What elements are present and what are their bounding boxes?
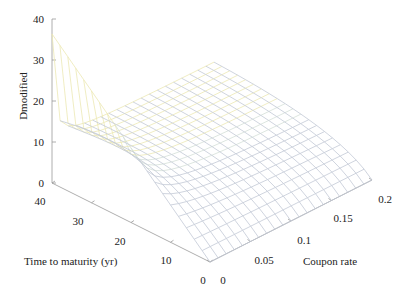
z-tick-label: 30 bbox=[33, 54, 45, 66]
c-tick-label: 0.15 bbox=[333, 212, 353, 224]
z-tick-label: 0 bbox=[39, 177, 45, 189]
c-tick-label: 0.1 bbox=[297, 234, 311, 246]
surface-mesh bbox=[52, 34, 372, 262]
t-tick-label: 0 bbox=[200, 274, 206, 286]
c-tick-label: 0.05 bbox=[254, 254, 274, 266]
z-tick-label: 40 bbox=[33, 13, 45, 25]
z-tick-label: 20 bbox=[33, 95, 45, 107]
t-tick-label: 10 bbox=[161, 254, 173, 266]
t-tick-label: 30 bbox=[73, 215, 85, 227]
c-tick-label: 0.2 bbox=[378, 193, 392, 205]
t-axis-label: Time to maturity (yr) bbox=[24, 255, 117, 267]
c-tick-label: 0 bbox=[220, 274, 226, 286]
t-tick-label: 20 bbox=[115, 235, 127, 247]
z-tick-label: 10 bbox=[33, 136, 45, 148]
surface-plot: 01020304001020304000.050.10.150.2 bbox=[0, 0, 402, 294]
t-tick-label: 40 bbox=[35, 195, 47, 207]
z-axis-label: Dmodified bbox=[17, 61, 29, 131]
c-axis-label: Coupon rate bbox=[303, 255, 357, 267]
